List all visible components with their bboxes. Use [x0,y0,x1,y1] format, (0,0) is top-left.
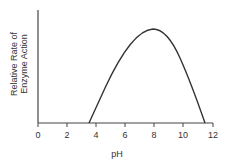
enzyme-activity-curve [89,29,205,123]
tick-label-4: 4 [93,130,98,140]
tick-label-12: 12 [208,130,218,140]
tick-label-10: 10 [178,130,188,140]
tick-label-0: 0 [35,130,40,140]
y-axis-title-line2: Enzyme Action [19,34,29,94]
tick-label-2: 2 [64,130,69,140]
tick-label-6: 6 [122,130,127,140]
x-tick-labels: 0 2 4 6 8 10 12 [35,130,218,140]
chart: 0 2 4 6 8 10 12 pH Relative Rate of Enzy… [0,0,227,168]
y-axis-title: Relative Rate of Enzyme Action [9,31,29,96]
tick-label-8: 8 [151,130,156,140]
x-axis-title: pH [111,149,123,159]
y-axis-title-line1: Relative Rate of [9,31,19,96]
